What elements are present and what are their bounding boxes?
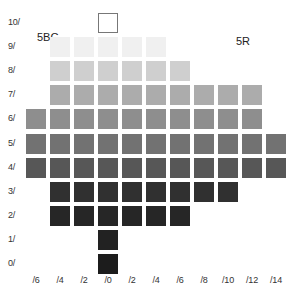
chroma-label: /14 xyxy=(265,275,287,285)
chroma-label: /0 xyxy=(97,275,119,285)
color-chip xyxy=(26,134,46,154)
color-chip xyxy=(74,61,94,81)
color-chip xyxy=(170,109,190,129)
color-chip xyxy=(122,134,142,154)
color-chip xyxy=(194,109,214,129)
color-chip xyxy=(74,85,94,105)
color-chip xyxy=(242,134,262,154)
chroma-label: /4 xyxy=(49,275,71,285)
chroma-label: /10 xyxy=(217,275,239,285)
color-chip xyxy=(266,134,286,154)
color-chip xyxy=(50,134,70,154)
color-chip xyxy=(146,182,166,202)
color-chip xyxy=(122,61,142,81)
color-chip xyxy=(170,85,190,105)
value-label: 7/ xyxy=(8,89,15,99)
color-chip xyxy=(98,134,118,154)
color-chip xyxy=(266,158,286,178)
value-label: 10/ xyxy=(8,17,20,27)
color-chip xyxy=(218,158,238,178)
color-chip xyxy=(98,61,118,81)
color-chip xyxy=(242,109,262,129)
color-chip xyxy=(50,61,70,81)
color-chip xyxy=(170,61,190,81)
chroma-label: /2 xyxy=(121,275,143,285)
color-chip xyxy=(194,182,214,202)
color-chip xyxy=(170,206,190,226)
value-label: 9/ xyxy=(8,41,15,51)
color-chip xyxy=(218,134,238,154)
value-label: 2/ xyxy=(8,210,15,220)
color-chip xyxy=(122,85,142,105)
hue-label-right: 5R xyxy=(236,35,250,47)
color-chip xyxy=(194,134,214,154)
color-chip xyxy=(146,85,166,105)
value-label: 3/ xyxy=(8,186,15,196)
color-chip xyxy=(170,158,190,178)
color-chip xyxy=(218,182,238,202)
chroma-label: /8 xyxy=(193,275,215,285)
color-chip xyxy=(98,37,118,57)
color-chip xyxy=(146,37,166,57)
color-chip xyxy=(74,109,94,129)
color-chip xyxy=(146,134,166,154)
color-chip xyxy=(98,85,118,105)
chroma-label: /12 xyxy=(241,275,263,285)
color-chip xyxy=(74,158,94,178)
color-chip xyxy=(50,182,70,202)
color-chip xyxy=(26,109,46,129)
color-chip xyxy=(50,206,70,226)
value-label: 4/ xyxy=(8,162,15,172)
color-chip xyxy=(98,158,118,178)
color-chip xyxy=(194,85,214,105)
color-chip xyxy=(98,206,118,226)
value-label: 5/ xyxy=(8,138,15,148)
color-chip xyxy=(74,206,94,226)
color-chip xyxy=(146,109,166,129)
color-chip xyxy=(170,134,190,154)
value-label: 6/ xyxy=(8,113,15,123)
color-chip xyxy=(218,109,238,129)
color-chip xyxy=(242,85,262,105)
value-label: 8/ xyxy=(8,65,15,75)
color-chip xyxy=(98,254,118,274)
color-chip xyxy=(26,158,46,178)
color-chip xyxy=(98,230,118,250)
color-chip xyxy=(170,182,190,202)
color-chip xyxy=(50,109,70,129)
value-label: 0/ xyxy=(8,258,15,268)
munsell-chart: 5BG 5R 10/9/8/7/6/5/4/3/2/1/0//6/4/2/0/2… xyxy=(0,0,297,296)
color-chip xyxy=(50,37,70,57)
color-chip xyxy=(122,37,142,57)
chroma-label: /6 xyxy=(169,275,191,285)
color-chip xyxy=(98,13,118,33)
color-chip xyxy=(74,37,94,57)
color-chip xyxy=(122,206,142,226)
color-chip xyxy=(50,85,70,105)
color-chip xyxy=(242,158,262,178)
color-chip xyxy=(146,61,166,81)
color-chip xyxy=(122,182,142,202)
color-chip xyxy=(74,182,94,202)
color-chip xyxy=(146,158,166,178)
color-chip xyxy=(194,158,214,178)
value-label: 1/ xyxy=(8,234,15,244)
color-chip xyxy=(50,158,70,178)
color-chip xyxy=(74,134,94,154)
color-chip xyxy=(218,85,238,105)
chroma-label: /6 xyxy=(25,275,47,285)
color-chip xyxy=(122,158,142,178)
chroma-label: /4 xyxy=(145,275,167,285)
color-chip xyxy=(98,109,118,129)
chroma-label: /2 xyxy=(73,275,95,285)
color-chip xyxy=(122,109,142,129)
color-chip xyxy=(146,206,166,226)
color-chip xyxy=(98,182,118,202)
